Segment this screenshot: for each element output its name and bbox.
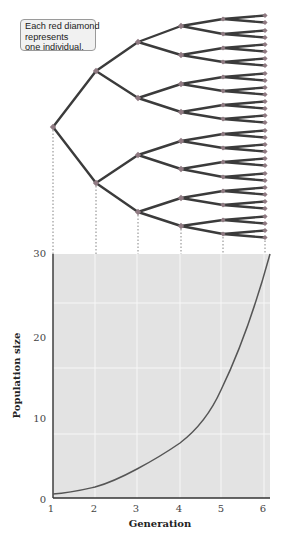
y-tick-20: 20	[24, 332, 46, 343]
individual-diamond-icon	[178, 52, 184, 58]
individual-diamond-icon	[262, 178, 267, 183]
individual-diamond-icon	[220, 116, 225, 121]
individual-diamond-icon	[262, 13, 267, 18]
tree-branch	[223, 34, 265, 38]
x-tick-4: 4	[171, 503, 187, 514]
individual-diamond-icon	[262, 106, 267, 111]
tree-branch	[138, 98, 181, 112]
individual-diamond-icon	[178, 138, 184, 144]
tree-branch	[223, 148, 265, 152]
individual-diamond-icon	[262, 185, 267, 190]
tree-branch	[138, 198, 181, 212]
tree-branch	[181, 169, 223, 177]
tree-branch	[138, 212, 181, 226]
tree-branch	[181, 226, 223, 234]
individual-diamond-icon	[220, 74, 225, 79]
y-tick-10: 10	[24, 413, 46, 424]
individual-diamond-icon	[178, 223, 184, 229]
tree-branch	[223, 220, 265, 224]
tree-branch	[181, 191, 223, 198]
tree-branch	[96, 71, 138, 98]
x-tick-2: 2	[86, 503, 102, 514]
individual-diamond-icon	[262, 214, 267, 219]
individual-diamond-icon	[262, 56, 267, 61]
tree-branch	[223, 119, 265, 123]
x-axis-label: Generation	[120, 518, 200, 529]
tree-branch	[223, 48, 265, 52]
tree-branch	[223, 62, 265, 66]
tree-branch	[223, 77, 265, 81]
individual-diamond-icon	[262, 71, 267, 76]
individual-diamond-icon	[262, 35, 267, 40]
tree-branch	[181, 141, 223, 148]
callout-box: Each red diamond represents one individu…	[20, 19, 96, 51]
tree-branch	[181, 26, 223, 34]
x-tick-1: 1	[43, 503, 59, 514]
individual-diamond-icon	[262, 199, 267, 204]
individual-diamond-icon	[262, 149, 267, 154]
individual-diamond-icon	[220, 59, 225, 64]
individual-diamond-icon	[262, 135, 267, 140]
tree-branch	[181, 134, 223, 141]
tree-branch	[223, 19, 265, 23]
individual-diamond-icon	[262, 49, 267, 54]
tree-branch	[223, 91, 265, 95]
tree-branch	[223, 191, 265, 195]
y-axis-label: Population size	[11, 331, 22, 421]
tree-branch	[181, 112, 223, 119]
tree-branch	[181, 48, 223, 55]
figure-canvas	[0, 0, 282, 541]
individual-diamond-icon	[178, 195, 184, 201]
tree-branch	[53, 71, 96, 127]
individual-diamond-icon	[262, 171, 267, 176]
individual-diamond-icon	[220, 217, 225, 222]
tree-branch	[223, 177, 265, 181]
tree-branch	[138, 42, 181, 55]
tree-branch	[53, 127, 96, 183]
y-tick-30: 30	[24, 248, 46, 259]
individual-diamond-icon	[262, 20, 267, 25]
individual-diamond-icon	[220, 202, 225, 207]
tree-branch	[223, 162, 265, 166]
tree-branch	[223, 205, 265, 209]
individual-diamond-icon	[262, 99, 267, 104]
individual-diamond-icon	[220, 31, 225, 36]
individual-diamond-icon	[220, 145, 225, 150]
tree-branch	[96, 155, 138, 183]
individual-diamond-icon	[178, 166, 184, 172]
tree-branch	[181, 105, 223, 112]
tree-branch	[138, 26, 181, 42]
plot-area	[53, 254, 270, 498]
individual-diamond-icon	[262, 42, 267, 47]
individual-diamond-icon	[220, 188, 225, 193]
individual-diamond-icon	[220, 88, 225, 93]
tree-branch	[181, 198, 223, 205]
individual-diamond-icon	[262, 156, 267, 161]
tree-branch	[223, 134, 265, 138]
individual-diamond-icon	[262, 206, 267, 211]
individual-diamond-icon	[262, 120, 267, 125]
individual-diamond-icon	[220, 174, 225, 179]
x-tick-3: 3	[128, 503, 144, 514]
tree-branch	[181, 220, 223, 226]
individual-diamond-icon	[178, 109, 184, 115]
individual-diamond-icon	[262, 192, 267, 197]
tree-branch	[138, 84, 181, 98]
tree-branch	[181, 77, 223, 84]
individual-diamond-icon	[178, 81, 184, 87]
callout-line-1: Each red diamond	[25, 21, 95, 32]
tree-branch	[138, 141, 181, 155]
tree-branch	[138, 155, 181, 169]
tree-branch	[181, 84, 223, 91]
individual-diamond-icon	[220, 16, 225, 21]
individual-diamond-icon	[220, 102, 225, 107]
individual-diamond-icon	[220, 131, 225, 136]
tree-branch	[96, 183, 138, 212]
individual-diamond-icon	[178, 23, 184, 29]
individual-diamond-icon	[262, 113, 267, 118]
individual-diamond-icon	[262, 221, 267, 226]
tree-branch	[181, 162, 223, 169]
individual-diamond-icon	[262, 28, 267, 33]
individual-diamond-icon	[262, 163, 267, 168]
tree-branch	[223, 105, 265, 109]
